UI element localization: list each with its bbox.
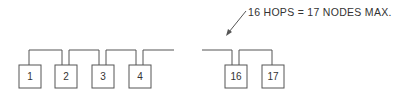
link-1-2 xyxy=(29,50,62,65)
node-label-3: 3 xyxy=(100,71,106,82)
link-4-out xyxy=(143,50,174,65)
link-in-16 xyxy=(202,50,232,65)
node-label-17: 17 xyxy=(267,71,279,82)
node-label-16: 16 xyxy=(230,71,242,82)
link-3-4 xyxy=(106,50,136,65)
pointer-arrow-line xyxy=(229,11,246,32)
node-label-2: 2 xyxy=(63,71,69,82)
link-2-3 xyxy=(69,50,99,65)
node-label-4: 4 xyxy=(137,71,143,82)
node-label-1: 1 xyxy=(27,71,33,82)
daisy-chain-diagram: 1 2 3 4 16 17 xyxy=(0,0,405,99)
link-16-17 xyxy=(239,50,272,65)
